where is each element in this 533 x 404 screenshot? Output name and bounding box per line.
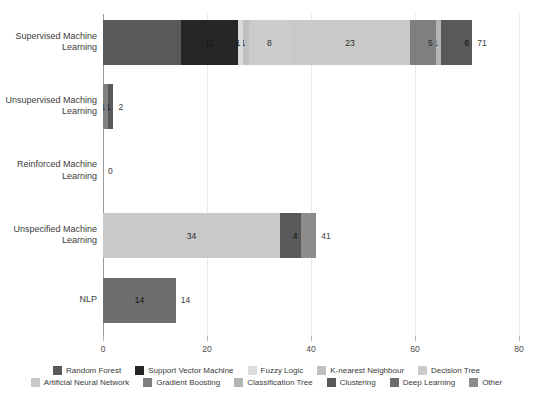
legend-item[interactable]: Clustering: [327, 378, 376, 387]
legend-swatch-icon: [234, 378, 243, 387]
category-label: Unspecified MachineLearning: [0, 224, 97, 247]
bar-segment[interactable]: 14: [103, 278, 176, 323]
stacked-bar[interactable]: 344: [103, 213, 316, 258]
category-label-line1: NLP: [0, 294, 97, 306]
category-label: Unsupervised MachingLearning: [0, 95, 97, 118]
legend-item[interactable]: Fuzzy Logic: [248, 366, 304, 375]
legend-swatch-icon: [53, 366, 62, 375]
legend-swatch-icon: [317, 366, 326, 375]
legend-label: Fuzzy Logic: [261, 366, 304, 375]
legend-item[interactable]: Random Forest: [53, 366, 121, 375]
legend-swatch-icon: [390, 378, 399, 387]
bar-segment[interactable]: 1: [108, 84, 113, 129]
x-axis-tick-label: 60: [395, 344, 435, 354]
legend-label: Deep Learning: [403, 378, 455, 387]
legend-item[interactable]: Other: [469, 378, 502, 387]
bar-row: NLP1414: [0, 278, 533, 323]
bar-total-label: 0: [108, 149, 113, 194]
x-axis-tick: [103, 336, 104, 341]
legend-label: Support Vector Machine: [148, 366, 233, 375]
legend: Random ForestSupport Vector MachineFuzzy…: [0, 366, 533, 387]
bar-segment[interactable]: 23: [290, 20, 410, 65]
category-label-line2: Learning: [0, 42, 97, 54]
category-label-line1: Unsupervised Maching: [0, 95, 97, 107]
stacked-bar[interactable]: 1111823516: [103, 20, 472, 65]
category-label-line1: Supervised Machine: [0, 31, 97, 43]
bar-segment[interactable]: 5: [410, 20, 436, 65]
category-label-line2: Learning: [0, 106, 97, 118]
x-axis-tick-label: 40: [291, 344, 331, 354]
bar-segment[interactable]: 6: [441, 20, 472, 65]
bar-segment[interactable]: 4: [280, 213, 301, 258]
legend-swatch-icon: [469, 378, 478, 387]
legend-item[interactable]: K-nearest Neighbour: [317, 366, 404, 375]
legend-label: Random Forest: [66, 366, 121, 375]
category-label-line2: Learning: [0, 235, 97, 247]
stacked-bar-chart: 020406080 Supervised MachineLearning1111…: [0, 0, 533, 404]
bar-total-label: 41: [321, 213, 330, 258]
category-label: NLP: [0, 294, 97, 306]
legend-label: Artificial Neural Network: [44, 378, 129, 387]
stacked-bar[interactable]: 14: [103, 278, 176, 323]
bar-segment[interactable]: [103, 20, 181, 65]
legend-label: Classification Tree: [247, 378, 312, 387]
x-axis-tick: [519, 336, 520, 341]
category-label: Reinforced MachineLearning: [0, 159, 97, 182]
legend-item[interactable]: Gradient Boosting: [143, 378, 220, 387]
legend-swatch-icon: [31, 378, 40, 387]
legend-row-1: Random ForestSupport Vector MachineFuzzy…: [46, 366, 487, 375]
x-axis-tick-label: 80: [499, 344, 533, 354]
legend-swatch-icon: [248, 366, 257, 375]
legend-item[interactable]: Support Vector Machine: [135, 366, 233, 375]
bar-total-label: 71: [477, 20, 486, 65]
category-label-line1: Unspecified Machine: [0, 224, 97, 236]
legend-label: Other: [482, 378, 502, 387]
legend-label: Clustering: [340, 378, 376, 387]
legend-row-2: Artificial Neural NetworkGradient Boosti…: [24, 378, 509, 387]
bar-segment[interactable]: 8: [249, 20, 291, 65]
legend-swatch-icon: [418, 366, 427, 375]
category-label-line2: Learning: [0, 171, 97, 183]
legend-swatch-icon: [327, 378, 336, 387]
bar-row: Unsupervised MachingLearning112: [0, 84, 533, 129]
legend-item[interactable]: Deep Learning: [390, 378, 455, 387]
category-label: Supervised MachineLearning: [0, 31, 97, 54]
x-axis-tick-label: 0: [83, 344, 123, 354]
legend-item[interactable]: Classification Tree: [234, 378, 312, 387]
bar-row: Unspecified MachineLearning34441: [0, 213, 533, 258]
legend-swatch-icon: [143, 378, 152, 387]
x-axis-tick: [207, 336, 208, 341]
legend-item[interactable]: Artificial Neural Network: [31, 378, 129, 387]
bar-segment[interactable]: 11: [181, 20, 238, 65]
stacked-bar[interactable]: 11: [103, 84, 113, 129]
bar-row: Supervised MachineLearning111182351671: [0, 20, 533, 65]
x-axis-tick: [311, 336, 312, 341]
legend-item[interactable]: Decision Tree: [418, 366, 480, 375]
bar-row: Reinforced MachineLearning0: [0, 149, 533, 194]
x-axis-tick-label: 20: [187, 344, 227, 354]
legend-swatch-icon: [135, 366, 144, 375]
category-label-line1: Reinforced Machine: [0, 159, 97, 171]
bar-total-label: 14: [181, 278, 190, 323]
bar-segment[interactable]: 34: [103, 213, 280, 258]
legend-label: Decision Tree: [431, 366, 480, 375]
x-axis-tick: [415, 336, 416, 341]
legend-label: Gradient Boosting: [156, 378, 220, 387]
bar-total-label: 2: [118, 84, 123, 129]
legend-label: K-nearest Neighbour: [330, 366, 404, 375]
bar-segment[interactable]: [301, 213, 317, 258]
